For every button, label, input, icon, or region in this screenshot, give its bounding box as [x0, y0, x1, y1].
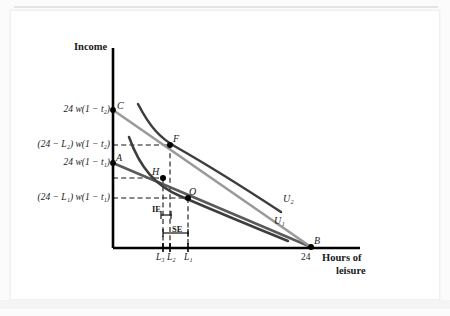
x-tick-label-l3: L₃: [156, 252, 165, 262]
y-axis-label: Income: [74, 41, 107, 52]
budget-line-t1: [113, 163, 311, 247]
point-label-f: F: [173, 133, 179, 144]
point-label-o: O: [189, 186, 196, 197]
y-tick-label-o-income: (24 − L₁) w(1 − t₁): [0, 192, 110, 202]
substitution-effect-label: SE: [172, 224, 182, 234]
point-label-b: B: [314, 235, 320, 246]
indifference-curve-u2: [138, 104, 281, 212]
y-tick-label-c-intercept: 24 w(1 − t₂): [0, 104, 110, 114]
y-tick-label-f-income: (24 − L₂) w(1 − t₂): [0, 139, 110, 149]
budget-line-t2: [113, 110, 311, 247]
x-tick-label-l2: L₂: [167, 252, 176, 262]
x-axis-label-line1: Hours of: [322, 252, 361, 263]
x-tick-label-l1: L₁: [184, 252, 193, 262]
curve-label-u2: U₂: [283, 193, 294, 204]
x-axis-label-line2: leisure: [336, 265, 366, 276]
point-label-c: C: [117, 100, 124, 111]
y-tick-label-a-intercept: 24 w(1 − t₁): [0, 157, 110, 167]
curve-label-u1: U₁: [274, 215, 285, 226]
marker-h: [160, 175, 166, 181]
marker-c: [110, 107, 116, 113]
indifference-curve-u1: [129, 137, 288, 241]
point-label-h: H: [152, 166, 159, 177]
income-effect-label: IE: [152, 204, 161, 214]
figure-page: Income Hours of leisure 24 w(1 − t₂) (24…: [0, 0, 450, 316]
point-label-a: A: [116, 152, 122, 163]
x-tick-label-24: 24: [301, 252, 311, 262]
